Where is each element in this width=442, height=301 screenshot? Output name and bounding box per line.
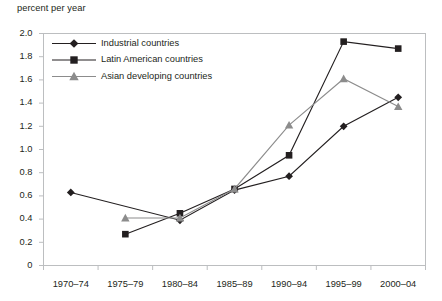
plot-frame xyxy=(44,34,426,266)
plot-area xyxy=(0,0,442,301)
square-marker xyxy=(70,56,77,63)
triangle-marker xyxy=(339,75,347,83)
chart-container: percent per year 00.20.40.60.81.01.21.41… xyxy=(0,0,442,301)
plot-border xyxy=(44,34,426,266)
data-series xyxy=(121,75,402,222)
axis-ticks xyxy=(39,34,426,271)
series-line xyxy=(71,97,398,220)
square-marker xyxy=(340,38,347,45)
legend-label: Latin American countries xyxy=(101,55,203,64)
square-marker xyxy=(395,45,402,52)
legend-label: Industrial countries xyxy=(101,39,179,48)
diamond-marker xyxy=(394,93,402,101)
triangle-marker xyxy=(394,102,402,110)
legend-markers xyxy=(52,39,96,80)
square-marker xyxy=(286,152,293,159)
legend-label: Asian developing countries xyxy=(101,72,212,81)
data-series xyxy=(122,38,401,237)
square-marker xyxy=(122,231,129,238)
diamond-marker xyxy=(70,39,79,48)
data-series xyxy=(67,93,402,224)
series-line xyxy=(125,79,398,218)
diamond-marker xyxy=(67,189,75,197)
data-series-layer xyxy=(67,38,403,237)
